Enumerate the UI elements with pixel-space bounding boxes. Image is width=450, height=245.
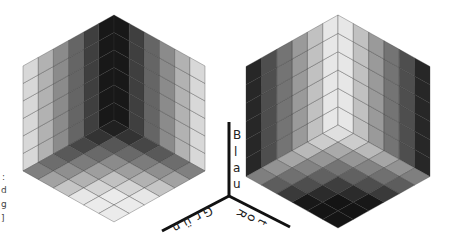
side-letter: ] <box>1 213 5 223</box>
cropped-side-text: : d g ] <box>1 172 7 223</box>
blue-axis-letter: l <box>234 145 237 159</box>
blue-axis-letter: u <box>233 177 241 191</box>
side-letter: d <box>1 185 7 195</box>
light-corner-cube <box>246 15 430 228</box>
side-letter: g <box>1 199 7 209</box>
blue-axis-letter: a <box>233 161 240 175</box>
dark-corner-cube <box>23 15 205 222</box>
color-cube-diagram: B l a u G r ü n R o t : d g ] <box>0 0 450 245</box>
blue-axis-letter: B <box>233 128 241 142</box>
side-letter: : <box>2 172 5 182</box>
